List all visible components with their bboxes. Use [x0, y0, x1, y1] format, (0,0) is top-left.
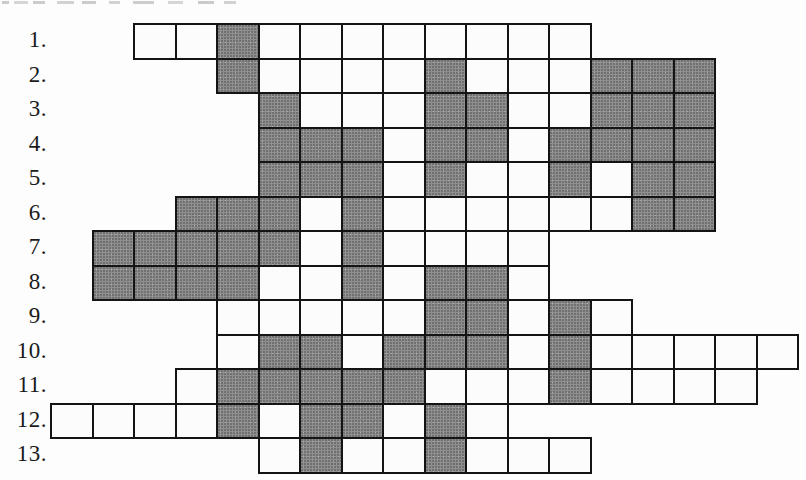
- grid-cell-shaded: [548, 127, 592, 164]
- grid-cell-white: [382, 437, 426, 474]
- grid-cell-shaded: [258, 334, 302, 371]
- grid-cell-shaded: [631, 196, 675, 233]
- grid-cell-shaded: [465, 334, 509, 371]
- grid-cell-white: [216, 334, 260, 371]
- grid-cell-shaded: [548, 161, 592, 198]
- grid-cell-white: [382, 403, 426, 440]
- grid-cell-white: [175, 403, 219, 440]
- grid-cell-white: [258, 403, 302, 440]
- grid-cell-shaded: [341, 127, 385, 164]
- grid-cell-white: [258, 437, 302, 474]
- grid-cell-shaded: [424, 437, 468, 474]
- grid-cell-white: [341, 92, 385, 129]
- grid-cell-shaded: [216, 230, 260, 267]
- grid-cell-shaded: [590, 92, 634, 129]
- grid-cell-shaded: [258, 196, 302, 233]
- grid-cell-shaded: [465, 127, 509, 164]
- grid-cell-white: [299, 196, 343, 233]
- grid-cell-white: [382, 58, 426, 95]
- grid-cell-white: [507, 23, 551, 60]
- grid-cell-white: [299, 230, 343, 267]
- clipped-text-fragment: [2, 0, 236, 5]
- grid-cell-shaded: [631, 58, 675, 95]
- grid-cell-white: [507, 230, 551, 267]
- grid-cell-shaded: [216, 403, 260, 440]
- grid-cell-shaded: [258, 92, 302, 129]
- grid-cell-white: [299, 299, 343, 336]
- grid-cell-white: [382, 127, 426, 164]
- grid-cell-white: [507, 161, 551, 198]
- grid-cell-white: [382, 23, 426, 60]
- grid-cell-white: [507, 127, 551, 164]
- grid-cell-shaded: [299, 437, 343, 474]
- grid-cell-shaded: [465, 299, 509, 336]
- row-label: 2.: [1, 62, 47, 85]
- row-label: 1.: [1, 28, 47, 51]
- grid-cell-white: [465, 403, 509, 440]
- grid-cell-white: [175, 368, 219, 405]
- grid-cell-shaded: [341, 161, 385, 198]
- grid-cell-shaded: [175, 230, 219, 267]
- grid-cell-white: [424, 368, 468, 405]
- grid-cell-shaded: [424, 161, 468, 198]
- grid-cell-shaded: [341, 265, 385, 302]
- grid-cell-white: [216, 299, 260, 336]
- grid-cell-shaded: [465, 92, 509, 129]
- grid-cell-white: [50, 403, 94, 440]
- grid-cell-white: [424, 196, 468, 233]
- row-label: 4.: [1, 131, 47, 154]
- grid-cell-shaded: [673, 58, 717, 95]
- grid-cell-shaded: [673, 196, 717, 233]
- grid-cell-white: [465, 196, 509, 233]
- grid-cell-shaded: [590, 127, 634, 164]
- grid-cell-white: [92, 403, 136, 440]
- grid-cell-shaded: [382, 334, 426, 371]
- grid-cell-white: [382, 299, 426, 336]
- grid-cell-white: [382, 196, 426, 233]
- grid-cell-shaded: [424, 92, 468, 129]
- grid-cell-white: [299, 92, 343, 129]
- grid-cell-white: [258, 265, 302, 302]
- row-label: 13.: [1, 442, 47, 465]
- grid-cell-white: [465, 368, 509, 405]
- grid-cell-shaded: [590, 58, 634, 95]
- grid-cell-shaded: [424, 127, 468, 164]
- grid-cell-white: [133, 403, 177, 440]
- grid-cell-white: [756, 334, 800, 371]
- grid-cell-shaded: [299, 161, 343, 198]
- grid-cell-white: [465, 437, 509, 474]
- grid-cell-white: [714, 334, 758, 371]
- grid-cell-shaded: [673, 92, 717, 129]
- row-label: 8.: [1, 269, 47, 292]
- grid-cell-shaded: [216, 23, 260, 60]
- grid-cell-shaded: [341, 403, 385, 440]
- grid-cell-shaded: [216, 196, 260, 233]
- grid-cell-shaded: [299, 127, 343, 164]
- grid-cell-white: [590, 368, 634, 405]
- grid-cell-shaded: [548, 368, 592, 405]
- grid-cell-white: [507, 92, 551, 129]
- grid-cell-white: [424, 230, 468, 267]
- grid-cell-shaded: [216, 58, 260, 95]
- grid-cell-shaded: [175, 196, 219, 233]
- grid-cell-shaded: [133, 265, 177, 302]
- grid-cell-white: [382, 92, 426, 129]
- grid-cell-white: [507, 368, 551, 405]
- row-label: 5.: [1, 166, 47, 189]
- grid-cell-white: [548, 92, 592, 129]
- grid-cell-white: [507, 265, 551, 302]
- grid-cell-shaded: [424, 334, 468, 371]
- grid-cell-white: [299, 265, 343, 302]
- grid-cell-white: [424, 23, 468, 60]
- grid-cell-shaded: [465, 265, 509, 302]
- grid-cell-shaded: [92, 265, 136, 302]
- grid-cell-white: [590, 299, 634, 336]
- row-label: 6.: [1, 200, 47, 223]
- grid-cell-shaded: [631, 92, 675, 129]
- grid-cell-white: [673, 368, 717, 405]
- grid-cell-shaded: [258, 127, 302, 164]
- grid-cell-shaded: [631, 161, 675, 198]
- grid-cell-white: [673, 334, 717, 371]
- grid-cell-white: [341, 299, 385, 336]
- grid-cell-shaded: [216, 368, 260, 405]
